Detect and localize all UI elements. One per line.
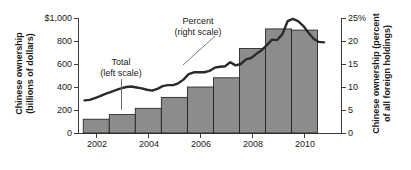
left-tick-label-0: 0 xyxy=(22,128,72,138)
right-axis-title-line1: Chinese ownership (percent xyxy=(371,9,382,139)
x-tickmark-2010 xyxy=(304,134,305,138)
left-tick-label-1000: $1,000 xyxy=(22,13,72,23)
annotation-percent-leader-line xyxy=(183,36,217,66)
right-tickmark-20 xyxy=(342,41,346,42)
right-axis-spine xyxy=(341,18,342,134)
x-tick-label-2004: 2004 xyxy=(126,139,172,149)
x-tick-label-2006: 2006 xyxy=(178,139,224,149)
left-tick-label-600: 600 xyxy=(22,59,72,69)
right-axis-title-line2: of all foreign holdings) xyxy=(381,9,392,139)
left-tick-label-200: 200 xyxy=(22,105,72,115)
right-tick-label-5: 5 xyxy=(348,105,378,115)
left-tick-label-800: 800 xyxy=(22,36,72,46)
x-tick-label-2002: 2002 xyxy=(74,139,120,149)
left-tick-label-400: 400 xyxy=(22,82,72,92)
x-tick-label-2008: 2008 xyxy=(230,139,276,149)
right-tick-label-0: 0 xyxy=(348,128,378,138)
left-axis-title-line1: Chinese ownership xyxy=(14,9,25,139)
right-tick-label-25: 25% xyxy=(348,13,378,23)
right-tickmark-5 xyxy=(342,110,346,111)
right-tick-label-15: 15 xyxy=(348,59,378,69)
right-tick-label-20: 20 xyxy=(348,36,378,46)
chart-figure: Chinese ownership (billions of dollars) … xyxy=(0,0,411,170)
right-tickmark-10 xyxy=(342,87,346,88)
annotation-total: Total (left scale) xyxy=(93,57,149,78)
right-tick-label-10: 10 xyxy=(348,82,378,92)
x-tickmark-2006 xyxy=(200,134,201,138)
annotation-total-line1: Total xyxy=(93,57,149,68)
x-tickmark-2008 xyxy=(252,134,253,138)
annotation-percent-line1: Percent xyxy=(167,16,229,27)
right-tickmark-0 xyxy=(342,133,346,134)
annotation-percent: Percent (right scale) xyxy=(167,16,229,37)
annotation-total-leader-line xyxy=(121,79,122,110)
x-tick-label-2010: 2010 xyxy=(282,139,328,149)
right-tickmark-25 xyxy=(342,18,346,19)
x-tickmark-2002 xyxy=(96,134,97,138)
annotation-total-line2: (left scale) xyxy=(93,68,149,79)
left-axis-title-line2: (billions of dollars) xyxy=(24,9,35,139)
left-axis-title: Chinese ownership (billions of dollars) xyxy=(14,9,35,139)
right-axis-title: Chinese ownership (percent of all foreig… xyxy=(371,9,392,139)
right-tickmark-15 xyxy=(342,64,346,65)
x-tickmark-2004 xyxy=(148,134,149,138)
